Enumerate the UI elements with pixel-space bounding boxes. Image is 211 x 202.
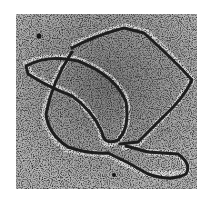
micrograph-canvas <box>16 14 197 189</box>
grain-texture <box>16 14 197 189</box>
micrograph-image <box>16 14 197 189</box>
